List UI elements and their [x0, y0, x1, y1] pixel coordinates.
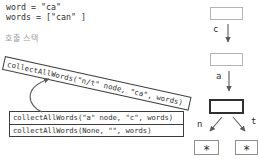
diagram-canvas: word = "ca" words = ["can" ] 호출 스택 colle…: [0, 0, 259, 159]
call-stack-frame: collectAllWords(None, "", words): [9, 124, 184, 138]
call-stack-frame-active: collectAllWords("n/t" node, "ca", words): [2, 56, 192, 111]
trie-leaf-cat: *: [235, 140, 258, 155]
word-variable-line: word = "ca": [6, 2, 61, 12]
call-stack: collectAllWords("a" node, "c", words) co…: [9, 111, 184, 137]
edge-label-n: n: [197, 120, 202, 129]
word-end-symbol: *: [243, 143, 250, 157]
trie-root-node: [210, 7, 243, 20]
trie-leaf-can: *: [194, 140, 219, 155]
edge-arrow-t-icon: [233, 117, 245, 131]
edge-arrow-n-icon: [210, 117, 222, 131]
edge-label-c: c: [213, 25, 218, 34]
pop-frame-curved-arrow-icon: [30, 79, 49, 112]
call-stack-frame: collectAllWords("a" node, "c", words): [9, 111, 184, 125]
trie-node-c: [210, 53, 243, 66]
trie-node-ca-current: [209, 99, 244, 114]
edge-label-t: t: [251, 117, 256, 126]
words-variable-line: words = ["can" ]: [6, 12, 86, 22]
call-stack-label: 호출 스택: [5, 32, 38, 43]
edge-label-a: a: [216, 72, 221, 81]
word-end-symbol: *: [203, 143, 210, 157]
